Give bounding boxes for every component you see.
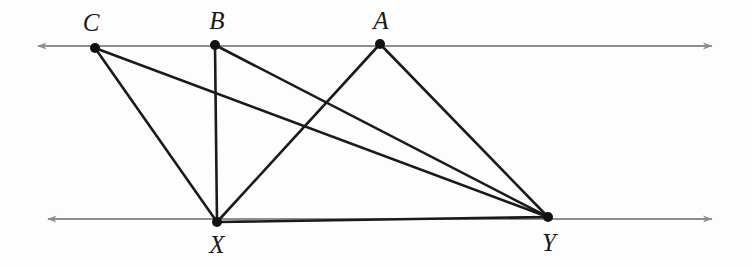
point-a	[375, 39, 385, 49]
segment-c-x	[95, 48, 217, 222]
geometry-canvas	[0, 0, 753, 268]
point-label-a: A	[373, 8, 388, 33]
point-label-b: B	[209, 8, 224, 33]
point-c	[90, 43, 100, 53]
point-b	[210, 40, 220, 50]
segments-group	[95, 44, 548, 222]
segment-b-y	[215, 45, 548, 217]
parallel-lines-group	[38, 46, 712, 219]
point-label-c: C	[83, 10, 100, 35]
point-y	[543, 212, 553, 222]
point-label-y: Y	[542, 230, 556, 255]
point-x	[212, 217, 222, 227]
segment-c-y	[95, 48, 548, 217]
geometry-figure: CBAXY	[0, 0, 753, 268]
segment-a-y	[380, 44, 548, 217]
point-label-x: X	[209, 232, 224, 257]
segment-a-x	[217, 44, 380, 222]
segment-b-x	[215, 45, 217, 222]
